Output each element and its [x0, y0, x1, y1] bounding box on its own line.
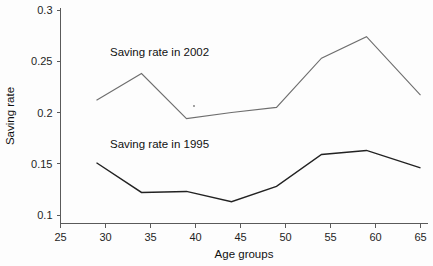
x-tick-label: 60	[369, 231, 381, 243]
y-tick-label: 0.15	[31, 158, 52, 170]
stray-artifact-dot	[193, 105, 195, 107]
y-tick-label: 0.25	[31, 55, 52, 67]
y-tick-label: 0.1	[37, 209, 52, 221]
x-tick-label: 40	[189, 231, 201, 243]
series-label-1995: Saving rate in 1995	[110, 138, 209, 150]
series-annotation-group: Saving rate in 2002Saving rate in 1995	[110, 46, 209, 150]
x-tick-label: 25	[54, 231, 66, 243]
y-tick-group: 0.10.150.20.250.3	[31, 4, 60, 221]
line-chart-svg: 0.10.150.20.250.3 253035404550556065 Sav…	[0, 0, 433, 266]
series-group	[97, 37, 421, 202]
x-tick-group: 253035404550556065	[54, 224, 426, 244]
series-label-2002: Saving rate in 2002	[110, 46, 209, 58]
x-axis-title: Age groups	[215, 248, 274, 260]
chart-container: 0.10.150.20.250.3 253035404550556065 Sav…	[0, 0, 433, 266]
x-tick-label: 65	[414, 231, 426, 243]
x-tick-label: 30	[99, 231, 111, 243]
y-tick-label: 0.2	[37, 107, 52, 119]
series-line-saving-rate-1995	[97, 150, 421, 201]
y-tick-label: 0.3	[37, 4, 52, 16]
y-axis-title: Saving rate	[4, 87, 16, 145]
x-tick-label: 50	[279, 231, 291, 243]
x-tick-label: 55	[324, 231, 336, 243]
x-tick-label: 35	[144, 231, 156, 243]
x-tick-label: 45	[234, 231, 246, 243]
